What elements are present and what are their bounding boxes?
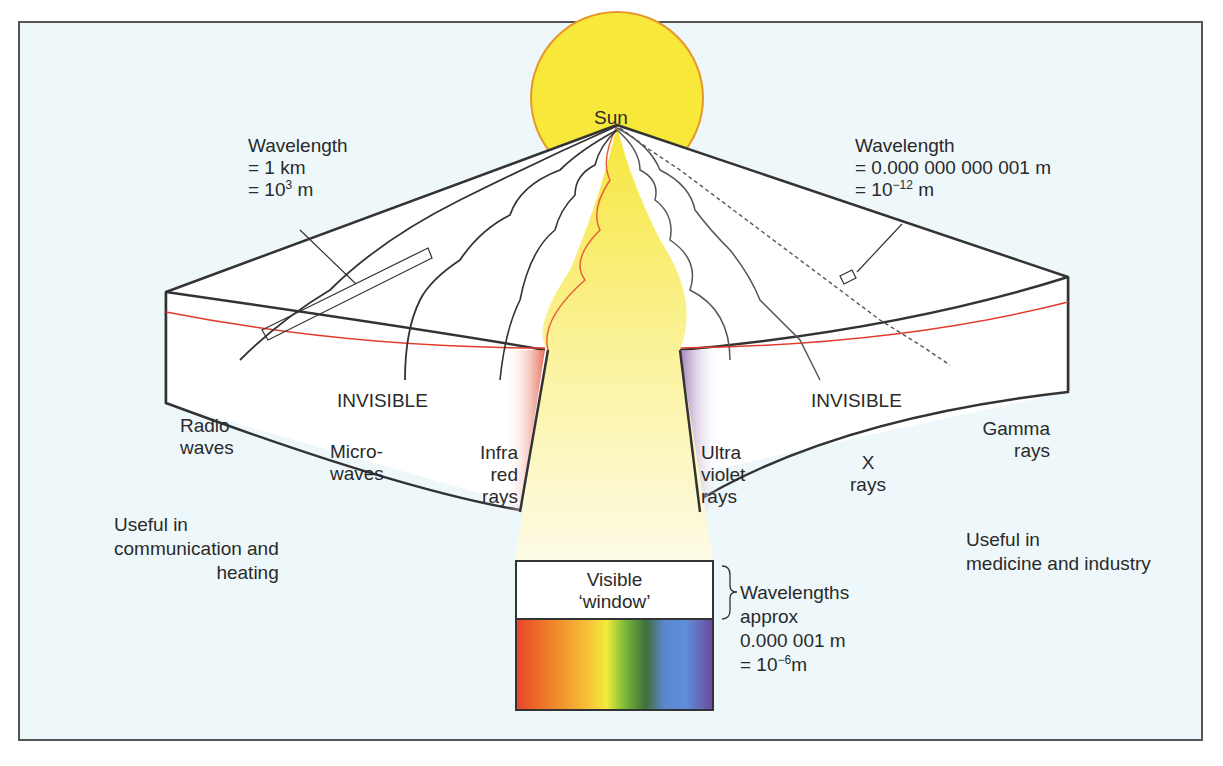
invisible-left-heading: INVISIBLE: [337, 390, 428, 412]
left-wavelength-callout: Wavelength = 1 km = 103 m: [248, 135, 348, 201]
sun-label: Sun: [594, 107, 628, 129]
uses-left: Useful in communication and heating: [114, 513, 279, 585]
gamma-rays-label: Gammarays: [955, 418, 1050, 462]
infrared-label: Infraredrays: [455, 442, 518, 508]
brace: [722, 566, 737, 619]
invisible-right-heading: INVISIBLE: [811, 390, 902, 412]
visible-wavelength-note: Wavelengths approx 0.000 001 m = 10−6m: [740, 581, 849, 677]
visible-spectrum: [516, 619, 713, 710]
right-wavelength-callout: Wavelength = 0.000 000 000 001 m = 10−12…: [855, 135, 1051, 201]
uses-right: Useful in medicine and industry: [966, 528, 1151, 576]
visible-window-label: Visible ‘window’: [516, 569, 713, 613]
xrays-label: Xrays: [838, 452, 898, 496]
radio-waves-label: Radiowaves: [180, 415, 234, 459]
ultraviolet-label: Ultravioletrays: [701, 442, 745, 508]
microwaves-label: Micro-waves: [330, 441, 384, 485]
